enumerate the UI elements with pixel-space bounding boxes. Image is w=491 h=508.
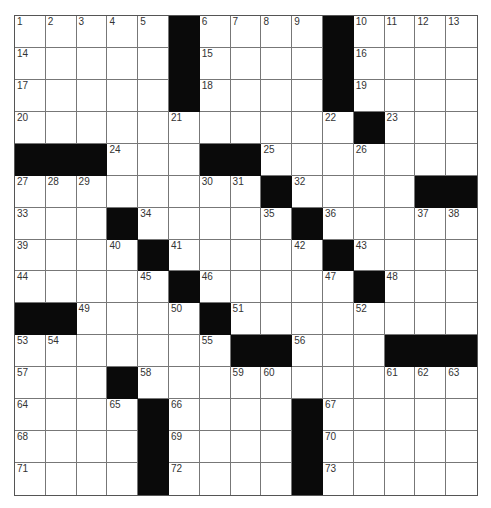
crossword-cell[interactable] [354,431,385,463]
crossword-cell[interactable] [46,80,77,112]
crossword-cell[interactable]: 2 [46,16,77,48]
crossword-cell[interactable] [46,208,77,240]
crossword-cell[interactable] [107,271,138,303]
crossword-cell[interactable] [415,431,446,463]
crossword-cell[interactable]: 12 [415,16,446,48]
crossword-cell[interactable] [77,335,108,367]
crossword-cell[interactable] [46,112,77,144]
crossword-cell[interactable] [415,271,446,303]
crossword-cell[interactable]: 58 [138,367,169,399]
crossword-cell[interactable]: 73 [323,463,354,495]
crossword-cell[interactable] [261,431,292,463]
crossword-cell[interactable]: 37 [415,208,446,240]
crossword-cell[interactable] [354,367,385,399]
crossword-cell[interactable] [415,240,446,272]
crossword-cell[interactable]: 24 [107,144,138,176]
crossword-cell[interactable] [415,48,446,80]
crossword-cell[interactable]: 68 [15,431,46,463]
crossword-cell[interactable] [385,431,416,463]
crossword-cell[interactable] [46,271,77,303]
crossword-cell[interactable] [261,112,292,144]
crossword-cell[interactable] [446,463,477,495]
crossword-cell[interactable] [415,80,446,112]
crossword-cell[interactable]: 39 [15,240,46,272]
crossword-cell[interactable] [200,367,231,399]
crossword-cell[interactable] [169,144,200,176]
crossword-cell[interactable] [200,463,231,495]
crossword-cell[interactable]: 1 [15,16,46,48]
crossword-cell[interactable] [385,176,416,208]
crossword-cell[interactable]: 4 [107,16,138,48]
crossword-cell[interactable]: 30 [200,176,231,208]
crossword-cell[interactable] [107,303,138,335]
crossword-cell[interactable]: 44 [15,271,46,303]
crossword-cell[interactable]: 17 [15,80,46,112]
crossword-cell[interactable] [169,367,200,399]
crossword-cell[interactable]: 70 [323,431,354,463]
crossword-cell[interactable] [323,367,354,399]
crossword-cell[interactable] [292,367,323,399]
crossword-cell[interactable] [169,335,200,367]
crossword-cell[interactable] [415,112,446,144]
crossword-cell[interactable] [107,80,138,112]
crossword-cell[interactable] [231,431,262,463]
crossword-cell[interactable] [446,399,477,431]
crossword-cell[interactable] [77,399,108,431]
crossword-cell[interactable] [46,367,77,399]
crossword-cell[interactable]: 3 [77,16,108,48]
crossword-cell[interactable]: 48 [385,271,416,303]
crossword-cell[interactable] [77,240,108,272]
crossword-cell[interactable] [385,463,416,495]
crossword-cell[interactable] [138,335,169,367]
crossword-cell[interactable]: 71 [15,463,46,495]
crossword-cell[interactable] [107,335,138,367]
crossword-cell[interactable]: 11 [385,16,416,48]
crossword-cell[interactable] [446,431,477,463]
crossword-cell[interactable] [446,80,477,112]
crossword-cell[interactable]: 67 [323,399,354,431]
crossword-cell[interactable]: 23 [385,112,416,144]
crossword-cell[interactable] [446,240,477,272]
crossword-cell[interactable] [385,208,416,240]
crossword-cell[interactable] [385,399,416,431]
crossword-cell[interactable]: 7 [231,16,262,48]
crossword-cell[interactable]: 18 [200,80,231,112]
crossword-cell[interactable] [261,303,292,335]
crossword-cell[interactable]: 62 [415,367,446,399]
crossword-cell[interactable] [323,176,354,208]
crossword-cell[interactable] [77,80,108,112]
crossword-cell[interactable] [46,399,77,431]
crossword-cell[interactable] [323,144,354,176]
crossword-cell[interactable]: 54 [46,335,77,367]
crossword-cell[interactable] [292,271,323,303]
crossword-cell[interactable]: 13 [446,16,477,48]
crossword-cell[interactable] [446,112,477,144]
crossword-cell[interactable] [231,112,262,144]
crossword-cell[interactable] [107,176,138,208]
crossword-cell[interactable] [77,367,108,399]
crossword-cell[interactable] [231,48,262,80]
crossword-cell[interactable] [323,335,354,367]
crossword-cell[interactable]: 28 [46,176,77,208]
crossword-cell[interactable] [354,463,385,495]
crossword-cell[interactable]: 21 [169,112,200,144]
crossword-cell[interactable] [446,48,477,80]
crossword-cell[interactable] [107,463,138,495]
crossword-cell[interactable] [138,303,169,335]
crossword-cell[interactable] [231,463,262,495]
crossword-cell[interactable]: 20 [15,112,46,144]
crossword-cell[interactable] [46,431,77,463]
crossword-cell[interactable]: 26 [354,144,385,176]
crossword-cell[interactable]: 63 [446,367,477,399]
crossword-cell[interactable]: 19 [354,80,385,112]
crossword-cell[interactable] [200,208,231,240]
crossword-cell[interactable] [77,271,108,303]
crossword-cell[interactable] [138,112,169,144]
crossword-cell[interactable]: 32 [292,176,323,208]
crossword-cell[interactable]: 59 [231,367,262,399]
crossword-cell[interactable] [261,463,292,495]
crossword-cell[interactable]: 34 [138,208,169,240]
crossword-cell[interactable] [323,303,354,335]
crossword-cell[interactable] [231,399,262,431]
crossword-cell[interactable]: 60 [261,367,292,399]
